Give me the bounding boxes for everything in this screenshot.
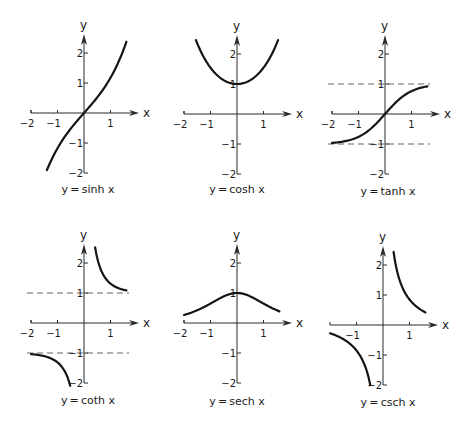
x-tick-label: 1 bbox=[107, 328, 113, 339]
x-tick-label: 1 bbox=[260, 119, 266, 130]
y-tick-label: 2 bbox=[77, 48, 83, 59]
x-tick-label: −2 bbox=[20, 328, 35, 339]
curve-sinh bbox=[47, 42, 127, 170]
curve-csch bbox=[330, 333, 370, 385]
x-tick-label: −2 bbox=[173, 328, 188, 339]
x-axis-label: x bbox=[444, 107, 451, 121]
chart-caption: y = csch x bbox=[361, 396, 416, 409]
y-tick-label: 2 bbox=[77, 258, 83, 269]
chart-panel-cosh: xy−2−1121−1−2y = cosh x bbox=[173, 19, 304, 196]
x-tick-label: −2 bbox=[321, 119, 336, 130]
x-tick-label: 1 bbox=[260, 328, 266, 339]
x-tick-label: −2 bbox=[20, 118, 35, 129]
y-tick-label: 1 bbox=[77, 78, 83, 89]
curve-csch bbox=[394, 252, 426, 312]
curve-tanh bbox=[332, 86, 427, 143]
x-tick-label: −1 bbox=[345, 330, 360, 341]
x-tick-label: 1 bbox=[107, 118, 113, 129]
x-tick-label: −1 bbox=[46, 328, 61, 339]
y-axis-label: y bbox=[80, 18, 87, 32]
chart-caption: y = sech x bbox=[209, 395, 265, 408]
y-tick-label: 1 bbox=[376, 290, 382, 301]
x-axis-label: x bbox=[296, 107, 303, 121]
y-tick-label: −1 bbox=[367, 350, 382, 361]
curve-coth bbox=[31, 354, 70, 386]
chart-panel-sinh: xy−2−1121−1−2y = sinh x bbox=[20, 18, 151, 196]
chart-caption: y = coth x bbox=[61, 394, 116, 407]
y-axis-label: y bbox=[379, 230, 386, 244]
y-axis-label: y bbox=[381, 19, 388, 33]
x-axis-label: x bbox=[296, 316, 303, 330]
y-tick-label: 2 bbox=[376, 260, 382, 271]
y-tick-label: 1 bbox=[77, 288, 83, 299]
y-tick-label: 2 bbox=[230, 49, 236, 60]
y-axis-label: y bbox=[233, 228, 240, 242]
y-tick-label: −1 bbox=[221, 348, 236, 359]
y-tick-label: 1 bbox=[378, 79, 384, 90]
y-tick-label: −2 bbox=[68, 168, 83, 179]
x-axis-label: x bbox=[442, 318, 449, 332]
y-tick-label: −1 bbox=[369, 139, 384, 150]
chart-panel-tanh: xy−2−1121−1−2y = tanh x bbox=[321, 19, 452, 198]
chart-caption: y = sinh x bbox=[62, 183, 115, 196]
x-axis-label: x bbox=[143, 316, 150, 330]
panels-group: xy−2−1121−1−2y = sinh xxy−2−1121−1−2y = … bbox=[20, 18, 452, 409]
chart-panel-sech: xy−2−1121−1−2y = sech x bbox=[173, 228, 304, 408]
chart-caption: y = tanh x bbox=[360, 185, 416, 198]
y-tick-label: −2 bbox=[221, 169, 236, 180]
y-tick-label: −1 bbox=[68, 348, 83, 359]
hyperbolic-functions-figure: xy−2−1121−1−2y = sinh xxy−2−1121−1−2y = … bbox=[0, 0, 472, 433]
x-tick-label: −2 bbox=[173, 119, 188, 130]
y-axis-label: y bbox=[233, 19, 240, 33]
x-tick-label: −1 bbox=[347, 119, 362, 130]
y-tick-label: −2 bbox=[369, 169, 384, 180]
y-tick-label: −1 bbox=[68, 138, 83, 149]
y-tick-label: −1 bbox=[221, 139, 236, 150]
x-tick-label: −1 bbox=[199, 328, 214, 339]
chart-panel-csch: xy−1121−1−2y = csch x bbox=[330, 230, 449, 409]
x-tick-label: −1 bbox=[199, 119, 214, 130]
y-tick-label: −2 bbox=[221, 378, 236, 389]
x-axis-label: x bbox=[143, 106, 150, 120]
chart-caption: y = cosh x bbox=[209, 183, 265, 196]
x-tick-label: −1 bbox=[46, 118, 61, 129]
y-tick-label: 2 bbox=[378, 49, 384, 60]
x-tick-label: 1 bbox=[406, 330, 412, 341]
chart-panel-coth: xy−2−1121−1−2y = coth x bbox=[20, 228, 151, 407]
y-axis-label: y bbox=[80, 228, 87, 242]
x-tick-label: 1 bbox=[408, 119, 414, 130]
curve-coth bbox=[95, 247, 126, 290]
y-tick-label: 2 bbox=[230, 258, 236, 269]
